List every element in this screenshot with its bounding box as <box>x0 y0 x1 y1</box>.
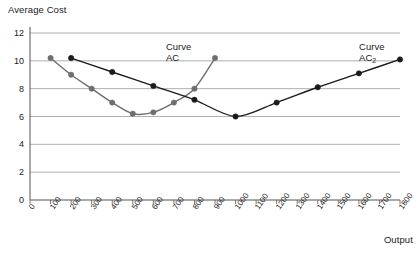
y-tick-label: 8 <box>6 84 24 94</box>
plot-area <box>0 0 419 255</box>
curve-ac2-label: CurveAC2 <box>359 41 384 66</box>
curve-label-line2: AC <box>166 52 191 63</box>
y-tick-label: 0 <box>6 195 24 205</box>
series-AC2 <box>68 55 402 119</box>
chart-container: Average Cost Output 024681012 0100200300… <box>0 0 419 255</box>
series-AC <box>48 55 218 116</box>
curve-ac-label: CurveAC <box>166 41 191 63</box>
y-tick-label: 12 <box>6 28 24 38</box>
y-tick-label: 4 <box>6 139 24 149</box>
curve-label-line1: Curve <box>166 41 191 52</box>
y-tick-label: 10 <box>6 56 24 66</box>
y-tick-label: 2 <box>6 167 24 177</box>
curve-label-line2: AC2 <box>359 52 384 66</box>
y-tick-label: 6 <box>6 112 24 122</box>
curve-label-line1: Curve <box>359 41 384 52</box>
